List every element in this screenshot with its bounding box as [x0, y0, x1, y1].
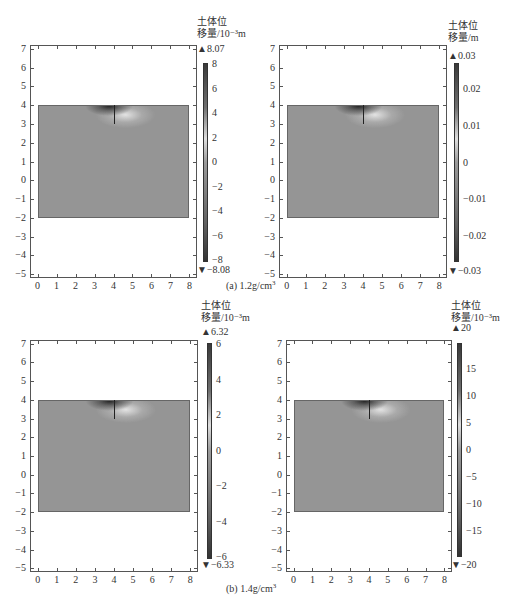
x-tick-label: 3	[89, 575, 101, 585]
colorbar	[203, 63, 208, 262]
y-tick-mark	[31, 568, 34, 569]
x-tick-label: 7	[414, 281, 426, 291]
x-tick-mark	[401, 274, 402, 277]
y-tick-mark	[448, 550, 451, 551]
y-tick-mark	[280, 86, 283, 87]
x-tick-label: 3	[338, 281, 350, 291]
x-tick-label: 0	[281, 281, 293, 291]
colorbar-min-value: ▼−8.08	[197, 265, 230, 275]
y-tick-label: 6	[10, 63, 26, 73]
y-tick-label: 7	[10, 339, 26, 349]
y-tick-mark	[443, 124, 446, 125]
y-tick-label: 4	[266, 395, 282, 405]
x-tick-label: 7	[165, 575, 177, 585]
colorbar	[207, 343, 212, 559]
y-tick-label: −1	[10, 488, 26, 498]
y-tick-label: 6	[266, 357, 282, 367]
y-tick-label: 4	[10, 395, 26, 405]
colorbar-tick-label: −2	[212, 182, 223, 192]
x-tick-mark	[114, 46, 115, 49]
colorbar-tick-label: 8	[212, 59, 217, 69]
y-tick-mark	[31, 199, 34, 200]
x-tick-label: 8	[183, 281, 195, 291]
y-tick-mark	[31, 218, 34, 219]
y-tick-mark	[287, 531, 290, 532]
y-tick-mark	[287, 362, 290, 363]
colorbar-max-value: ▲20	[451, 323, 471, 333]
x-tick-mark	[190, 341, 191, 344]
y-tick-label: 1	[10, 157, 26, 167]
y-tick-mark	[194, 475, 197, 476]
colorbar-tick-label: −4	[216, 517, 227, 527]
y-tick-label: 4	[10, 100, 26, 110]
x-tick-mark	[363, 46, 364, 49]
y-tick-label: 3	[259, 119, 275, 129]
y-tick-mark	[280, 143, 283, 144]
colorbar-tick-label: −6	[216, 552, 227, 562]
x-tick-mark	[325, 46, 326, 49]
y-tick-mark	[31, 124, 34, 125]
colorbar-tick-label: −8	[212, 255, 223, 265]
x-tick-mark	[38, 341, 39, 344]
colorbar-tick-label: 0.02	[463, 84, 481, 94]
y-tick-mark	[194, 550, 197, 551]
y-tick-mark	[31, 162, 34, 163]
y-tick-mark	[443, 199, 446, 200]
colorbar-tick-label: 6	[216, 339, 221, 349]
y-tick-mark	[448, 381, 451, 382]
x-tick-mark	[133, 568, 134, 571]
x-tick-label: 1	[306, 575, 318, 585]
colorbar-min-value: ▼−0.03	[448, 266, 481, 276]
colorbar-tick-label: 15	[466, 364, 476, 374]
colorbar	[454, 63, 459, 262]
y-tick-label: 2	[259, 138, 275, 148]
x-tick-mark	[407, 341, 408, 344]
y-tick-label: 5	[259, 81, 275, 91]
y-tick-label: 3	[266, 414, 282, 424]
x-tick-mark	[189, 46, 190, 49]
colorbar-tick-label: −10	[466, 499, 482, 509]
colorbar-tick-label: 4	[216, 375, 221, 385]
x-tick-mark	[132, 46, 133, 49]
y-tick-label: 1	[10, 451, 26, 461]
colorbar-tick-label: −0.01	[463, 194, 486, 204]
y-tick-mark	[31, 105, 34, 106]
y-tick-mark	[31, 419, 34, 420]
colorbar-tick-label: 5	[466, 418, 471, 428]
x-tick-mark	[407, 568, 408, 571]
y-tick-label: −1	[10, 194, 26, 204]
x-tick-mark	[114, 274, 115, 277]
y-tick-mark	[193, 237, 196, 238]
x-tick-mark	[294, 568, 295, 571]
y-tick-mark	[287, 493, 290, 494]
x-tick-mark	[350, 341, 351, 344]
x-tick-mark	[312, 341, 313, 344]
y-tick-mark	[280, 218, 283, 219]
y-tick-mark	[280, 68, 283, 69]
x-tick-mark	[426, 341, 427, 344]
y-tick-mark	[280, 49, 283, 50]
y-tick-label: −1	[266, 488, 282, 498]
caption-b-text: (b) 1.4g/cm	[226, 583, 273, 594]
crack-line	[114, 400, 115, 419]
x-tick-mark	[388, 568, 389, 571]
x-tick-mark	[170, 46, 171, 49]
x-tick-mark	[350, 568, 351, 571]
x-tick-mark	[76, 341, 77, 344]
colorbar-title: 土体位移量/10⁻³m	[201, 300, 250, 324]
x-tick-label: 1	[51, 575, 63, 585]
y-tick-label: −3	[10, 232, 26, 242]
colorbar-tick-label: −15	[466, 526, 482, 536]
y-tick-mark	[193, 162, 196, 163]
y-tick-label: −3	[266, 526, 282, 536]
y-tick-label: 3	[10, 414, 26, 424]
y-tick-label: 2	[10, 138, 26, 148]
caption-b: (b) 1.4g/cm3	[226, 582, 276, 594]
caption-a-sup: 3	[272, 279, 276, 287]
y-tick-label: 0	[10, 470, 26, 480]
x-tick-mark	[420, 46, 421, 49]
y-tick-label: 7	[10, 44, 26, 54]
y-tick-label: 4	[259, 100, 275, 110]
y-tick-mark	[194, 344, 197, 345]
x-tick-mark	[132, 274, 133, 277]
